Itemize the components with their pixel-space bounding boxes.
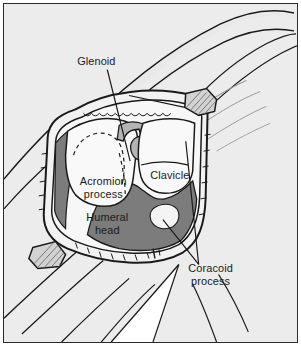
label-glenoid: Glenoid — [77, 55, 115, 67]
figure-frame: Glenoid Acromion process Clavicle Humera… — [3, 3, 298, 343]
label-coracoid-process-line1: Coracoid — [188, 262, 232, 274]
coracoid-tip-highlight — [150, 204, 179, 228]
figure-root: Glenoid Acromion process Clavicle Humera… — [0, 0, 301, 346]
label-coracoid-process-line2: process — [191, 275, 230, 287]
label-acromion-process-line2: process — [84, 188, 123, 200]
shoulder-exposure-illustration: Glenoid Acromion process Clavicle Humera… — [4, 4, 297, 342]
label-acromion-process-line1: Acromion — [80, 175, 127, 187]
label-humeral-head-line1: Humeral — [86, 211, 128, 223]
clavicle-bone — [138, 119, 194, 193]
label-clavicle: Clavicle — [150, 169, 189, 181]
label-humeral-head-line2: head — [95, 224, 120, 236]
illustration-body: Glenoid Acromion process Clavicle Humera… — [4, 4, 297, 342]
